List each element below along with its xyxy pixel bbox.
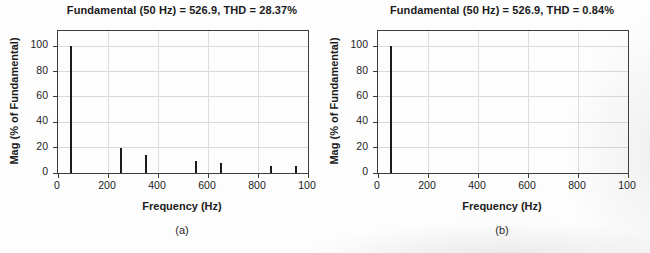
h-gridline	[58, 96, 308, 97]
x-axis-tick	[478, 174, 479, 178]
chart-title: Fundamental (50 Hz) = 526.9, THD = 0.84%	[365, 4, 639, 16]
y-tick-label: 60	[0, 89, 48, 101]
harmonic-bar	[220, 163, 222, 173]
x-tick-label: 400	[452, 179, 502, 191]
x-axis-tick	[158, 174, 159, 178]
y-axis-tick	[53, 173, 57, 174]
y-axis-tick	[53, 71, 57, 72]
v-gridline	[478, 31, 479, 173]
harmonic-bar	[390, 46, 392, 173]
plot-area	[377, 30, 629, 174]
x-axis-tick	[108, 174, 109, 178]
x-axis-tick	[378, 174, 379, 178]
h-gridline	[58, 122, 308, 123]
y-tick-label: 20	[0, 140, 48, 152]
fft-chart-b: Fundamental (50 Hz) = 526.9, THD = 0.84%…	[320, 0, 645, 253]
y-tick-label: 40	[0, 114, 48, 126]
v-gridline	[528, 31, 529, 173]
y-tick-label: 100	[320, 38, 368, 50]
x-tick-label: 600	[182, 179, 232, 191]
y-axis-tick	[373, 147, 377, 148]
x-tick-label: 800	[552, 179, 602, 191]
plot-area	[57, 30, 309, 174]
h-gridline	[58, 147, 308, 148]
x-tick-label: 0	[32, 179, 82, 191]
v-gridline	[428, 31, 429, 173]
y-axis-tick	[373, 173, 377, 174]
harmonic-bar	[195, 161, 197, 173]
v-gridline	[208, 31, 209, 173]
v-gridline	[258, 31, 259, 173]
subfigure-caption: (b)	[377, 224, 627, 236]
h-gridline	[378, 96, 628, 97]
x-axis-tick	[308, 174, 309, 178]
y-axis-tick	[53, 96, 57, 97]
y-tick-label: 100	[0, 38, 48, 50]
y-tick-label: 60	[320, 89, 368, 101]
h-gridline	[378, 147, 628, 148]
x-axis-tick	[208, 174, 209, 178]
y-tick-label: 80	[0, 64, 48, 76]
x-axis-tick	[578, 174, 579, 178]
y-axis-tick	[53, 122, 57, 123]
h-gridline	[58, 71, 308, 72]
v-gridline	[158, 31, 159, 173]
y-axis-tick	[373, 96, 377, 97]
y-axis-tick	[373, 71, 377, 72]
harmonic-bar	[70, 46, 72, 173]
scanned-figure: Fundamental (50 Hz) = 526.9, THD = 28.37…	[0, 0, 650, 253]
x-axis-tick	[58, 174, 59, 178]
y-tick-label: 20	[320, 140, 368, 152]
v-gridline	[578, 31, 579, 173]
h-gridline	[58, 46, 308, 47]
y-axis-tick	[373, 122, 377, 123]
h-gridline	[378, 71, 628, 72]
h-gridline	[378, 46, 628, 47]
x-axis-tick	[258, 174, 259, 178]
fft-chart-a: Fundamental (50 Hz) = 526.9, THD = 28.37…	[0, 0, 325, 253]
chart-title: Fundamental (50 Hz) = 526.9, THD = 28.37…	[45, 4, 319, 16]
y-axis-tick	[53, 46, 57, 47]
subfigure-caption: (a)	[57, 224, 307, 236]
h-gridline	[378, 122, 628, 123]
x-tick-label: 600	[502, 179, 552, 191]
harmonic-bar	[270, 166, 272, 173]
harmonic-bar	[120, 148, 122, 173]
x-tick-label: 200	[402, 179, 452, 191]
v-gridline	[108, 31, 109, 173]
x-tick-label: 0	[352, 179, 402, 191]
y-tick-label: 0	[320, 165, 368, 177]
x-axis-tick	[428, 174, 429, 178]
x-axis-label: Frequency (Hz)	[57, 200, 307, 212]
y-tick-label: 0	[0, 165, 48, 177]
harmonic-bar	[145, 155, 147, 173]
y-axis-tick	[373, 46, 377, 47]
x-axis-label: Frequency (Hz)	[377, 200, 627, 212]
y-axis-tick	[53, 147, 57, 148]
harmonic-bar	[295, 166, 297, 173]
y-tick-label: 40	[320, 114, 368, 126]
x-tick-label: 100	[602, 179, 650, 191]
x-tick-label: 200	[82, 179, 132, 191]
x-axis-tick	[628, 174, 629, 178]
x-tick-label: 400	[132, 179, 182, 191]
x-axis-tick	[528, 174, 529, 178]
y-tick-label: 80	[320, 64, 368, 76]
x-tick-label: 800	[232, 179, 282, 191]
